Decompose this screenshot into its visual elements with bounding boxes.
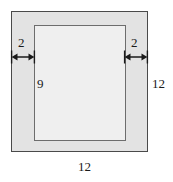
left-dimension-arrow — [10, 50, 36, 64]
left-margin-label: 2 — [18, 36, 25, 49]
right-margin-label: 2 — [131, 36, 138, 49]
geometry-figure: 2 2 9 12 12 — [0, 0, 173, 182]
outer-right-side-label: 12 — [152, 77, 165, 90]
outer-bottom-side-label: 12 — [78, 160, 91, 173]
right-dimension-arrow — [123, 50, 149, 64]
inner-height-label: 9 — [37, 77, 44, 90]
inner-rectangle — [34, 25, 126, 141]
